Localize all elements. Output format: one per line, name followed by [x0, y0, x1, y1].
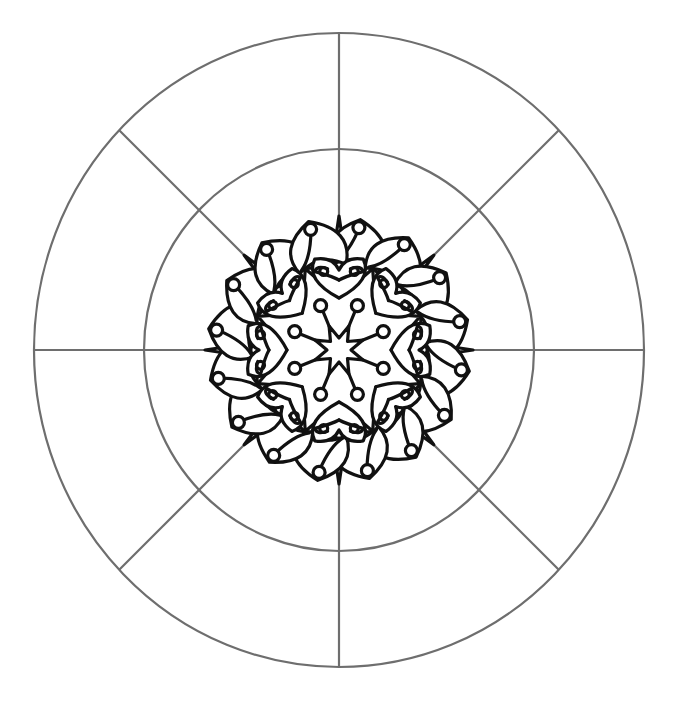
bud-dot — [305, 223, 317, 235]
dot — [351, 300, 363, 312]
bud-dot — [434, 272, 446, 284]
dot — [377, 362, 389, 374]
dot — [377, 326, 389, 338]
bud-dot — [212, 372, 224, 384]
dot — [289, 326, 301, 338]
bud-dot — [261, 243, 273, 255]
dot — [315, 300, 327, 312]
bud-dot — [353, 222, 365, 234]
bud-dot — [454, 316, 466, 328]
bud-dot — [455, 364, 467, 376]
bud-dot — [211, 324, 223, 336]
dot — [289, 362, 301, 374]
bud-dot — [398, 239, 410, 251]
bud-dot — [268, 449, 280, 461]
bud-dot — [438, 409, 450, 421]
dot — [315, 388, 327, 400]
bud-dot — [228, 279, 240, 291]
mandala-coloring-page — [0, 0, 676, 702]
bud-dot — [361, 465, 373, 477]
bud-dot — [405, 445, 417, 457]
mandala-ornament — [205, 216, 473, 484]
bud-dot — [313, 466, 325, 478]
bud-dot — [232, 416, 244, 428]
dot — [351, 388, 363, 400]
